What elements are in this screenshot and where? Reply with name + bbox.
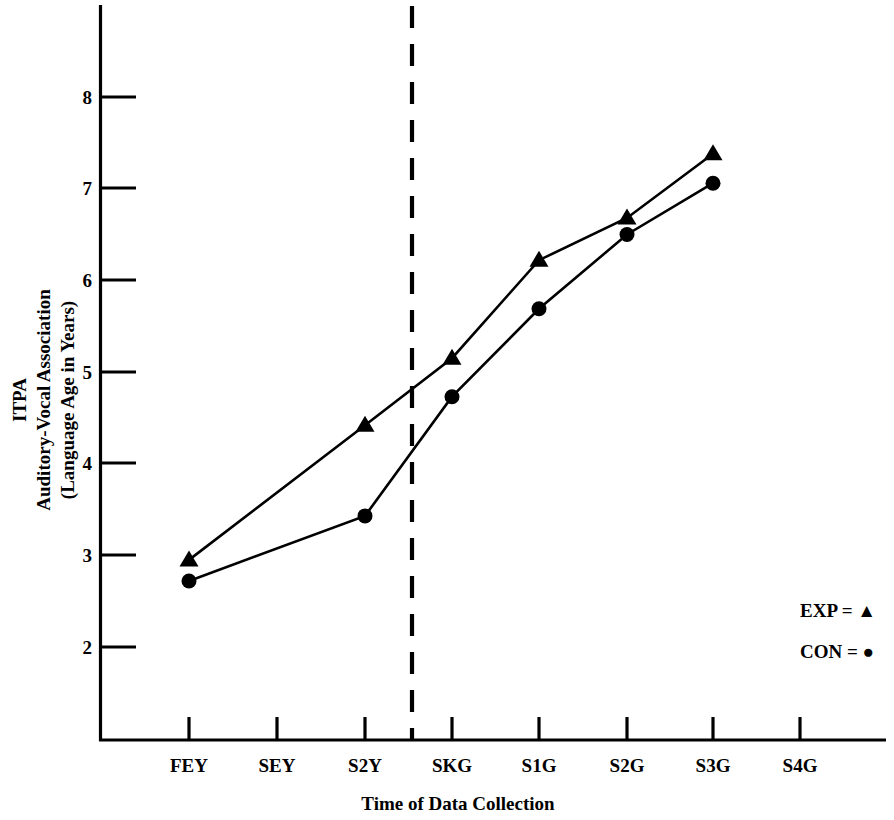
y-axis-title: ITPA Auditory-Vocal Association (Languag… xyxy=(9,289,79,511)
y-tick-label-8: 8 xyxy=(83,87,93,108)
marker-con-s2g xyxy=(620,227,635,242)
x-label-fey: FEY xyxy=(170,755,208,776)
x-axis-category-labels: FEY SEY S2Y SKG S1G S2G S3G S4G xyxy=(170,755,818,776)
marker-exp-fey xyxy=(180,550,199,566)
marker-con-s3g xyxy=(706,176,721,191)
x-axis-title: Time of Data Collection xyxy=(361,793,555,814)
x-label-s1g: S1G xyxy=(522,755,557,776)
marker-con-s2y xyxy=(358,508,373,523)
legend: EXP = ▲ CON = ● xyxy=(800,600,876,662)
y-tick-label-2: 2 xyxy=(83,637,93,658)
x-label-s2y: S2Y xyxy=(348,755,382,776)
y-tick-label-7: 7 xyxy=(83,178,93,199)
marker-exp-s1g xyxy=(530,251,549,267)
marker-exp-s3g xyxy=(704,144,723,160)
series-line-con-path xyxy=(189,183,713,581)
y-axis-title-line-2: Auditory-Vocal Association xyxy=(33,289,54,511)
marker-con-skg xyxy=(445,389,460,404)
x-label-skg: SKG xyxy=(432,755,472,776)
line-chart: 8 7 6 5 4 3 2 FEY SEY S2Y SKG S1G S2G xyxy=(0,0,894,820)
y-axis-ticks xyxy=(101,97,136,647)
marker-con-s1g xyxy=(532,301,547,316)
legend-entry-exp: EXP = ▲ xyxy=(800,600,876,621)
marker-exp-s2y xyxy=(356,416,375,432)
marker-exp-s2g xyxy=(618,209,637,225)
x-label-s2g: S2G xyxy=(610,755,645,776)
chart-container: 8 7 6 5 4 3 2 FEY SEY S2Y SKG S1G S2G xyxy=(0,0,894,820)
y-tick-label-3: 3 xyxy=(83,545,93,566)
legend-entry-con: CON = ● xyxy=(800,641,874,662)
y-tick-label-6: 6 xyxy=(83,270,93,291)
y-axis-tick-labels: 8 7 6 5 4 3 2 xyxy=(83,87,93,658)
y-axis-title-line-3: (Language Age in Years) xyxy=(57,301,79,499)
x-label-s3g: S3G xyxy=(696,755,731,776)
x-label-s4g: S4G xyxy=(783,755,818,776)
y-tick-label-4: 4 xyxy=(83,453,93,474)
y-axis-title-line-1: ITPA xyxy=(9,378,30,422)
marker-con-fey xyxy=(182,574,197,589)
x-axis-ticks xyxy=(189,717,800,739)
x-label-sey: SEY xyxy=(259,755,296,776)
y-tick-label-5: 5 xyxy=(83,362,93,383)
series-markers-con xyxy=(182,176,721,589)
